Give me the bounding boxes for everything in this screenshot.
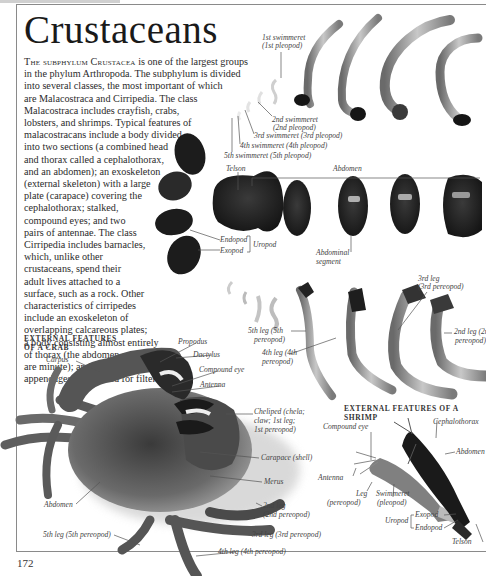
label-2nd-pereopod: pereopod): [455, 337, 486, 346]
label-compound-eye: Compound eye: [199, 366, 244, 375]
label-carpus: Carpus: [46, 356, 68, 365]
label-exopod: Exopod: [220, 247, 243, 256]
label-telson-shrimp: Telson: [452, 538, 472, 547]
label-2nd-pereopod-crab: (2nd pereopod): [263, 511, 310, 520]
label-3rd-pereopod: (3rd pereopod): [418, 283, 464, 292]
label-pleopod-shrimp: (pleopod): [377, 499, 407, 508]
label-abdomen: Abdomen: [333, 165, 362, 174]
label-uropod: Uropod: [253, 241, 276, 250]
label-cephalothorax: Cephalothorax: [433, 418, 479, 427]
label-carapace: Carapace (shell): [261, 454, 312, 463]
shrimp-illustration: [354, 418, 472, 540]
crab-heading: External features of a crab: [24, 334, 117, 352]
label-abdominal-segment-2: segment: [316, 258, 341, 267]
label-antenna: Antenna: [200, 381, 225, 390]
label-exopod-shrimp: Exopod: [415, 511, 438, 520]
label-3rd-leg-crab: 3rd leg (3rd pereopod): [252, 531, 321, 540]
label-telson: Telson: [226, 165, 246, 174]
label-endopod-shrimp: Endopod: [415, 524, 442, 533]
label-abdomen-shrimp: Abdomen: [456, 448, 485, 457]
label-antenna-shrimp: Antenna: [318, 474, 343, 483]
label-merus: Merus: [264, 478, 283, 487]
label-1st-pleopod: (1st pleopod): [262, 42, 302, 51]
label-4th-swimmeret: 4th swimmeret (4th pleopod): [240, 142, 327, 151]
crab-heading-line-1: External features: [24, 334, 117, 343]
crab-illustration: [5, 350, 300, 576]
label-4th-pereopod: pereopod): [262, 358, 293, 367]
label-endopod: Endopod: [220, 236, 247, 245]
specimen-illustrations: [0, 0, 486, 576]
label-propodus: Propodus: [178, 338, 207, 347]
label-uropod-shrimp: Uropod: [385, 517, 408, 526]
label-abdomen-crab: Abdomen: [44, 501, 73, 510]
label-dactylus: Dactylus: [193, 351, 220, 360]
label-cheliped-3: 1st pereopod): [254, 426, 296, 435]
crab-heading-line-2: of a crab: [24, 343, 117, 352]
page-number: 172: [17, 557, 34, 569]
label-5th-swimmeret: 5th swimmeret (5th pleopod): [224, 152, 311, 161]
label-compound-eye-shrimp: Compound eye: [323, 423, 368, 432]
abdomen-segments: [213, 171, 482, 237]
uropod-fans: [153, 130, 210, 280]
label-5th-leg-crab: 5th leg (5th pereopod): [43, 531, 111, 540]
label-5th-pereopod: pereopod): [254, 336, 285, 345]
label-4th-leg-crab: 4th leg (4th pereopod): [218, 548, 286, 557]
label-pereopod-shrimp: (pereopod): [327, 499, 360, 508]
label-3rd-swimmeret: 3rd swimmeret (3rd pleopod): [254, 132, 342, 141]
